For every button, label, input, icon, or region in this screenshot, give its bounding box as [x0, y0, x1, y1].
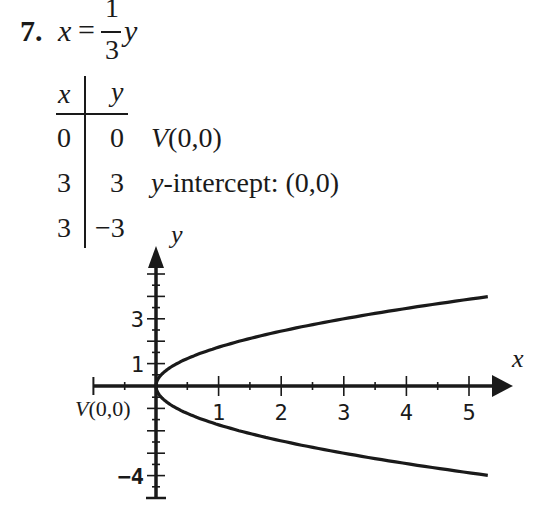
axes	[93, 246, 513, 498]
y-tick-label: 3	[131, 307, 144, 332]
parabola-graph: 1234531−4xyV(0,0)	[0, 0, 556, 532]
x-axis-label: x	[511, 344, 524, 373]
x-tick-label: 3	[337, 400, 350, 425]
x-tick-label: 1	[212, 400, 225, 425]
x-tick-label: 4	[400, 400, 413, 425]
y-axis-label: y	[168, 220, 183, 249]
y-tick-label: −4	[118, 464, 145, 489]
curve-lower-branch	[156, 386, 488, 475]
curve-upper-branch	[156, 297, 488, 386]
y-axis-arrow-icon	[148, 246, 164, 268]
vertex-label: V(0,0)	[75, 396, 131, 421]
y-tick-label: 1	[131, 352, 144, 377]
x-tick-label: 2	[275, 400, 288, 425]
x-axis-arrow-icon	[492, 375, 513, 397]
x-tick-label: 5	[462, 400, 475, 425]
axis-labels: 1234531−4xyV(0,0)	[75, 220, 524, 489]
